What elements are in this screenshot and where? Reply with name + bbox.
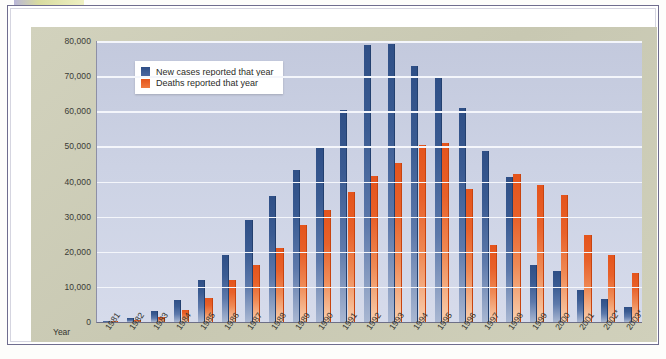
gridline — [97, 182, 642, 184]
legend-item-new-cases: New cases reported that year — [141, 67, 274, 77]
chart-card: 80,00070,00060,00050,00040,00030,00020,0… — [31, 27, 657, 342]
figure-frame-inner: 80,00070,00060,00050,00040,00030,00020,0… — [10, 8, 656, 342]
bar-deaths — [395, 163, 402, 322]
bar-new-cases — [530, 265, 537, 322]
bar-new-cases — [316, 148, 323, 322]
gridline — [97, 76, 642, 78]
y-axis-tick: 20,000 — [64, 247, 91, 257]
bar-new-cases — [435, 76, 442, 322]
x-axis: 1981198219831984198519861987198819891990… — [96, 324, 641, 359]
bar-new-cases — [506, 177, 513, 322]
bar-deaths — [561, 195, 568, 322]
bar-new-cases — [269, 196, 276, 322]
bar-new-cases — [222, 255, 229, 322]
gridline — [97, 41, 642, 43]
chart-page: 80,00070,00060,00050,00040,00030,00020,0… — [0, 0, 666, 359]
y-axis-tick: 40,000 — [64, 177, 91, 187]
y-axis-tick: 30,000 — [64, 212, 91, 222]
y-axis: 80,00070,00060,00050,00040,00030,00020,0… — [31, 41, 91, 322]
bar-new-cases — [411, 66, 418, 322]
legend-label-new-cases: New cases reported that year — [156, 67, 274, 77]
gridline — [97, 287, 642, 289]
bar-deaths — [584, 235, 591, 322]
y-axis-tick: 60,000 — [64, 106, 91, 116]
bar-deaths — [300, 225, 307, 322]
y-axis-tick: 10,000 — [64, 282, 91, 292]
x-axis-label: Year — [53, 327, 70, 337]
bar-new-cases — [388, 44, 395, 322]
bar-deaths — [513, 174, 520, 322]
bar-deaths — [442, 143, 449, 322]
bar-deaths — [324, 210, 331, 322]
bar-deaths — [466, 189, 473, 322]
bar-new-cases — [245, 220, 252, 322]
gridline — [97, 146, 642, 148]
bar-new-cases — [459, 108, 466, 322]
bar-new-cases — [364, 45, 371, 322]
bar-deaths — [419, 145, 426, 322]
plot-area: New cases reported that year Deaths repo… — [96, 41, 642, 323]
bar-deaths — [348, 192, 355, 322]
bar-deaths — [537, 185, 544, 322]
bar-new-cases — [482, 151, 489, 322]
legend-swatch-new-cases — [141, 67, 150, 76]
bar-new-cases — [293, 170, 300, 322]
legend-label-deaths: Deaths reported that year — [156, 78, 258, 88]
legend-item-deaths: Deaths reported that year — [141, 78, 274, 88]
y-axis-tick: 80,000 — [64, 36, 91, 46]
y-axis-tick: 50,000 — [64, 141, 91, 151]
bar-deaths — [371, 176, 378, 322]
gridline — [97, 252, 642, 254]
y-axis-tick: 0 — [86, 317, 91, 327]
legend-swatch-deaths — [141, 79, 150, 88]
gridline — [97, 111, 642, 113]
gridline — [97, 217, 642, 219]
y-axis-tick: 70,000 — [64, 71, 91, 81]
bar-new-cases — [553, 271, 560, 322]
figure-frame: 80,00070,00060,00050,00040,00030,00020,0… — [7, 5, 659, 345]
